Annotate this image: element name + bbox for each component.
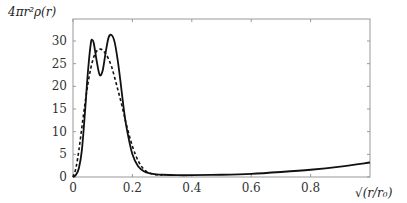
plot-frame [73,19,370,177]
x-tick-label: 0.8 [301,181,320,195]
y-tick-label: 30 [52,34,67,48]
x-axis-label: √(r/r₀) [355,186,393,200]
y-tick-label: 25 [52,57,67,71]
series-dashed-line [73,49,162,177]
x-tick-label: 0.6 [242,181,261,195]
y-tick-label: 5 [59,147,67,161]
x-tick-label: 0.2 [123,181,142,195]
series-solid-line [73,35,370,177]
y-axis-label: 4πr²ρ(r) [7,5,57,19]
x-tick-label: 0.4 [182,181,201,195]
y-tick-label: 20 [52,79,67,93]
y-tick-label: 15 [52,102,67,116]
density-chart: 00.20.40.60.8 051015202530 4πr²ρ(r) √(r/… [0,0,407,203]
y-tick-label: 0 [59,170,67,184]
y-tick-label: 10 [52,125,67,139]
x-tick-label: 0 [69,181,77,195]
